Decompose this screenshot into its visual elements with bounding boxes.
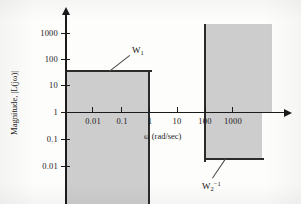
annotation-w2-inverse-superscript: −1 — [214, 180, 221, 187]
x-axis-title: ω (rad/sec) — [144, 131, 181, 141]
annotation-w2-inverse-leader-line — [212, 158, 226, 178]
annotation-w1-base: W — [132, 45, 141, 55]
x-tick-label-1: 1 — [140, 116, 160, 126]
x-tick-1 — [149, 107, 150, 113]
y-tick-label-1000: 1000 — [16, 28, 58, 38]
x-axis-line — [66, 112, 286, 114]
x-tick-10 — [177, 107, 178, 113]
y-tick-label-100: 100 — [16, 54, 58, 64]
x-tick-label-10: 10 — [166, 116, 188, 126]
x-tick-100 — [205, 107, 206, 113]
y-tick-10 — [61, 85, 70, 86]
region-w2-inverse-lower-bottom-edge — [204, 158, 264, 160]
x-tick-label-100: 100 — [192, 116, 218, 126]
y-axis-title: Magnitude, |L(jω)| — [9, 43, 19, 163]
y-axis-arrowhead — [62, 7, 70, 15]
region-w2-inverse-upper-fill — [205, 24, 272, 112]
annotation-w2-inverse-base: W — [202, 181, 211, 191]
x-tick-0.1 — [121, 107, 122, 113]
x-tick-label-1000: 1000 — [217, 116, 249, 126]
y-tick-label-0.01: 0.01 — [16, 161, 58, 171]
y-axis-line — [65, 14, 67, 204]
x-tick-1000 — [232, 107, 233, 113]
y-tick-0.1 — [61, 139, 70, 140]
region-w2-inverse-upper-left-edge — [204, 24, 206, 112]
y-tick-label-0.1: 0.1 — [16, 134, 58, 144]
x-axis-arrowhead — [284, 109, 292, 117]
region-w1-fill — [66, 72, 150, 204]
y-tick-label-1: 1 — [16, 107, 58, 117]
y-tick-1000 — [61, 33, 70, 34]
y-tick-0.01 — [61, 166, 70, 167]
annotation-w1-subscript: 1 — [141, 49, 144, 56]
magnitude-bode-constraint-chart: 1000 100 10 1 0.1 0.01 0.01 0.1 1 10 100… — [0, 0, 301, 204]
x-tick-label-0.01: 0.01 — [77, 116, 109, 126]
y-tick-1 — [61, 112, 70, 113]
x-tick-label-0.1: 0.1 — [108, 116, 136, 126]
x-tick-0.01 — [92, 107, 93, 113]
y-tick-100 — [61, 59, 70, 60]
y-tick-label-10: 10 — [16, 80, 58, 90]
